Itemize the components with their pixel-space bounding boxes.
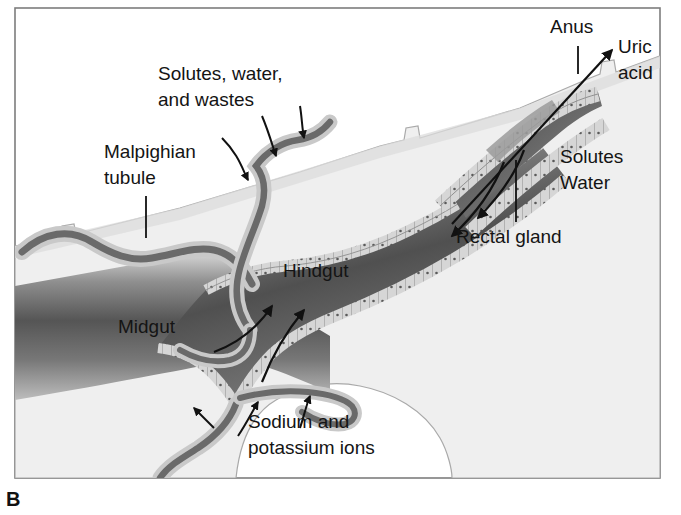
label-solutes: Solutes bbox=[560, 146, 623, 167]
label-midgut: Midgut bbox=[118, 316, 176, 337]
label-anus: Anus bbox=[550, 16, 593, 37]
label-uric-acid-line2: acid bbox=[618, 62, 653, 83]
label-uric-acid-line1: Uric bbox=[618, 36, 652, 57]
label-malpighian-line1: Malpighian bbox=[104, 141, 196, 162]
label-solutes-water-wastes-line2: and wastes bbox=[158, 89, 254, 110]
label-water: Water bbox=[560, 172, 611, 193]
diagram-canvas: Solutes, water, and wastes Malpighian tu… bbox=[0, 0, 681, 515]
label-solutes-water-wastes-line1: Solutes, water, bbox=[158, 63, 283, 84]
panel-letter: B bbox=[6, 488, 20, 510]
label-sodium-line2: potassium ions bbox=[248, 437, 375, 458]
insect-excretory-system-figure: Solutes, water, and wastes Malpighian tu… bbox=[0, 0, 681, 515]
label-sodium-line1: Sodium and bbox=[248, 411, 349, 432]
label-malpighian-line2: tubule bbox=[104, 167, 156, 188]
label-hindgut: Hindgut bbox=[283, 260, 349, 281]
label-rectal-gland: Rectal gland bbox=[456, 226, 562, 247]
